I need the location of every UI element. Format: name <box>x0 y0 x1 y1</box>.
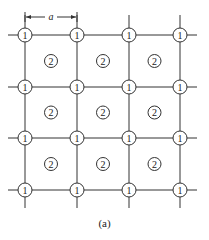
node-label-1: 1 <box>75 82 80 93</box>
node-label-1: 1 <box>127 133 132 144</box>
node-label-2: 2 <box>101 56 106 67</box>
node-label-2: 2 <box>49 159 54 170</box>
node-label-2: 2 <box>152 56 157 67</box>
node-label-1: 1 <box>23 82 28 93</box>
node-label-2: 2 <box>101 159 106 170</box>
node-label-1: 1 <box>178 30 183 41</box>
node-label-1: 1 <box>178 185 183 196</box>
dimension-label: a <box>49 11 54 22</box>
node-label-1: 1 <box>23 133 28 144</box>
lattice-nodes: 1111111111111111222222222 <box>18 28 187 197</box>
node-label-1: 1 <box>23 185 28 196</box>
node-label-1: 1 <box>75 185 80 196</box>
node-label-1: 1 <box>178 133 183 144</box>
node-label-1: 1 <box>178 82 183 93</box>
dimension-a: a <box>25 11 77 22</box>
node-label-1: 1 <box>75 133 80 144</box>
node-label-2: 2 <box>49 107 54 118</box>
node-label-2: 2 <box>101 107 106 118</box>
node-label-1: 1 <box>75 30 80 41</box>
node-label-1: 1 <box>23 30 28 41</box>
node-label-1: 1 <box>127 185 132 196</box>
node-label-1: 1 <box>127 30 132 41</box>
figure-caption: (a) <box>0 217 209 229</box>
node-label-2: 2 <box>152 107 157 118</box>
square-lattice-diagram: a 1111111111111111222222222 <box>0 0 209 240</box>
node-label-2: 2 <box>152 159 157 170</box>
node-label-2: 2 <box>49 56 54 67</box>
node-label-1: 1 <box>127 82 132 93</box>
